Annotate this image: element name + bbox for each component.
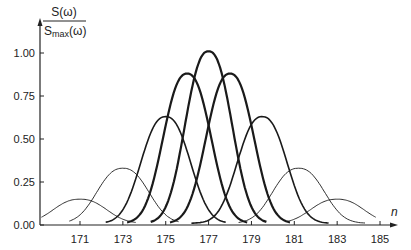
x-tick-label: 183 bbox=[328, 233, 346, 245]
curve-peak-181 bbox=[239, 168, 365, 223]
x-tick-label: 185 bbox=[371, 233, 389, 245]
y-tick-label: 0.25 bbox=[14, 176, 35, 188]
x-tick-label: 175 bbox=[157, 233, 175, 245]
y-axis-title: S(ω) Smax(ω) bbox=[43, 5, 86, 39]
y-axis-title-numerator: S(ω) bbox=[51, 5, 76, 19]
x-axis-title: n bbox=[391, 205, 398, 219]
y-tick-label: 1.00 bbox=[14, 47, 35, 59]
x-tick-label: 179 bbox=[242, 233, 260, 245]
spectrum-chart: S(ω) Smax(ω) n 0.000.250.500.751.00 1711… bbox=[0, 0, 411, 250]
y-axis-title-denominator: Smax(ω) bbox=[44, 24, 86, 39]
y-tick-label: 0.00 bbox=[14, 219, 35, 231]
y-tick-label: 0.50 bbox=[14, 133, 35, 145]
curve-peak-178 bbox=[170, 74, 290, 223]
x-axis-arrow-icon bbox=[390, 223, 398, 228]
curve-peak-177 bbox=[151, 51, 267, 222]
x-tick-label: 181 bbox=[285, 233, 303, 245]
x-tick-label: 177 bbox=[199, 233, 217, 245]
y-axis-arrow-icon bbox=[38, 18, 43, 26]
x-tick-label: 173 bbox=[114, 233, 132, 245]
curves bbox=[41, 51, 375, 223]
x-tick-label: 171 bbox=[71, 233, 89, 245]
y-tick-label: 0.75 bbox=[14, 90, 35, 102]
